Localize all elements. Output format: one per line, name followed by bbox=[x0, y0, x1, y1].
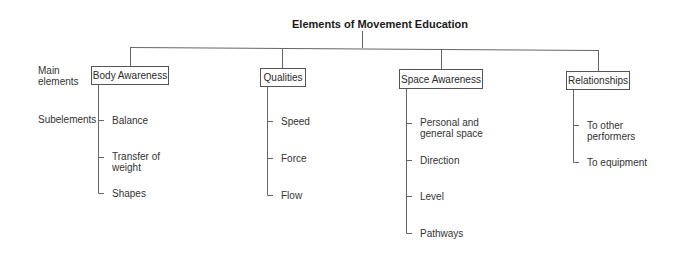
node-qualities: Qualities bbox=[260, 68, 306, 87]
main-elements-label: Main elements bbox=[38, 65, 79, 87]
subnode-force: Force bbox=[281, 153, 307, 164]
node-body-awareness: Body Awareness bbox=[91, 66, 169, 85]
subnode-pathways: Pathways bbox=[420, 228, 463, 239]
subnode-transfer-of-weight: Transfer of weight bbox=[112, 151, 160, 173]
subnode-flow: Flow bbox=[281, 190, 302, 201]
subnode-direction: Direction bbox=[420, 155, 459, 166]
node-space-awareness: Space Awareness bbox=[399, 69, 483, 89]
connector-lines bbox=[0, 0, 675, 258]
subelements-label: Subelements bbox=[38, 114, 96, 125]
subnode-to-equipment: To equipment bbox=[587, 157, 647, 168]
diagram-title: Elements of Movement Education bbox=[292, 18, 468, 30]
main-elements-label-line1: Main bbox=[38, 65, 79, 76]
subnode-speed: Speed bbox=[281, 116, 310, 127]
node-relationships: Relationships bbox=[566, 71, 630, 90]
subnode-level: Level bbox=[420, 191, 444, 202]
subnode-personal-general-space: Personal and general space bbox=[420, 117, 483, 139]
subnode-shapes: Shapes bbox=[112, 188, 146, 199]
main-elements-label-line2: elements bbox=[38, 76, 79, 87]
subnode-to-other-performers: To other performers bbox=[587, 120, 635, 142]
subnode-balance: Balance bbox=[112, 115, 148, 126]
